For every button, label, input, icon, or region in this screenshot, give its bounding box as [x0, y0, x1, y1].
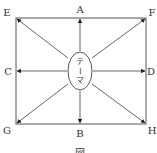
- arrow-to-e: [17, 19, 68, 58]
- label-c: C: [4, 66, 12, 77]
- label-f: F: [149, 7, 156, 18]
- label-d: D: [147, 66, 155, 77]
- label-e: E: [3, 7, 10, 18]
- theme-char-2: ー: [75, 67, 84, 75]
- arrow-to-f: [92, 19, 145, 58]
- radial-diagram: テ ー マ A B C D E F G H 図: [0, 0, 157, 153]
- theme-char-1: テ: [76, 57, 84, 66]
- arrow-to-g: [17, 84, 68, 123]
- label-g: G: [3, 125, 11, 136]
- figure-caption: 図: [75, 148, 85, 153]
- label-h: H: [148, 125, 157, 136]
- arrow-to-h: [92, 84, 145, 123]
- label-b: B: [76, 128, 83, 139]
- theme-char-3: マ: [76, 76, 84, 85]
- label-a: A: [75, 4, 84, 15]
